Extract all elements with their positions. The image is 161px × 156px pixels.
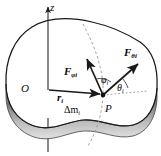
mass-element-label: Δmi (64, 105, 80, 116)
position-vector-label: ri (57, 92, 63, 105)
origin-label: O (21, 83, 29, 94)
rigid-body-outline (6, 19, 157, 128)
angle-phi-subscript: i (107, 79, 109, 86)
angle-theta-subscript: i (122, 87, 124, 94)
mass-element-symbol: Δm (64, 104, 78, 115)
force-theta-label: Fθi (124, 47, 137, 60)
mass-element-subscript: i (78, 109, 80, 116)
rigid-body-force-diagram: z O ri Δmi P Fφi Fθi φi θi (0, 0, 161, 156)
point-p-label: P (105, 103, 112, 114)
position-vector-subscript: i (61, 97, 63, 104)
angle-theta-label: θi (117, 83, 124, 94)
angle-phi-label: φi (101, 75, 108, 86)
point-p-marker (101, 93, 106, 98)
diagram-canvas (0, 0, 161, 156)
force-phi-subscript: φi (71, 71, 77, 78)
force-phi-label: Fφi (64, 66, 77, 79)
axis-z-label: z (50, 2, 54, 13)
force-theta-subscript: θi (131, 52, 136, 59)
